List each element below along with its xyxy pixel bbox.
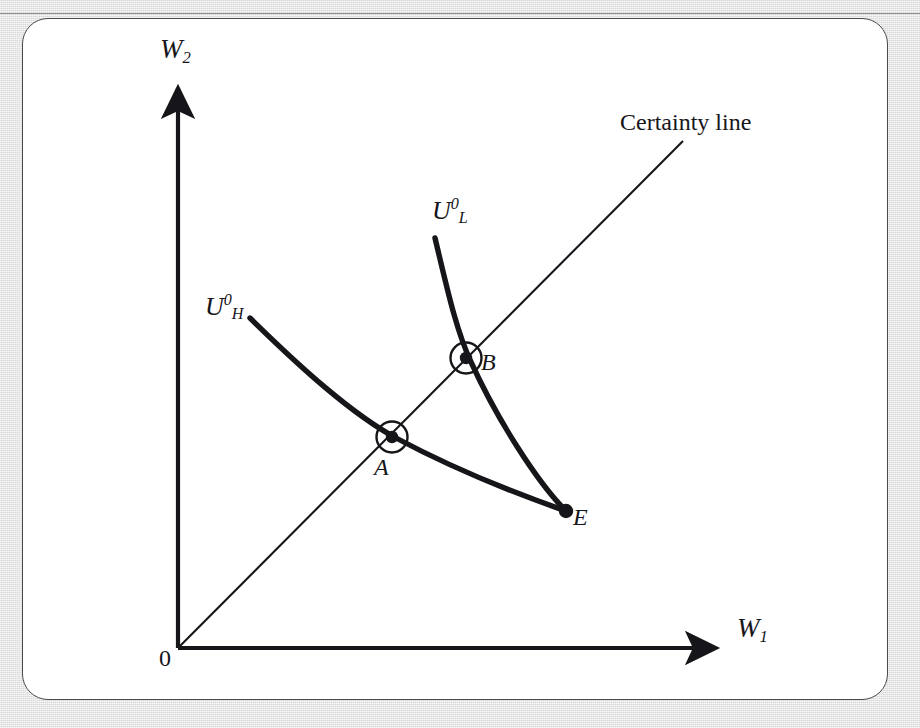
low-risk-curve-label: U0L [432,196,468,227]
diagram-canvas [0,0,920,728]
certainty-line [178,141,683,648]
high-risk-curve-label: U0H [205,292,243,323]
point-b-label: B [481,350,496,374]
point-b-marker [451,343,482,374]
point-e-label: E [573,505,588,529]
point-a-label: A [374,455,389,479]
point-a-marker [377,422,408,453]
figure-page: W2 W1 0 U0H U0L A B E Certainty line [0,0,920,728]
point-e-marker [559,504,573,518]
y-axis-label: W2 [160,36,191,66]
origin-label: 0 [159,646,171,670]
certainty-line-label: Certainty line [620,110,751,134]
x-axis-label: W1 [737,615,768,645]
high-risk-indifference-curve [250,318,566,511]
